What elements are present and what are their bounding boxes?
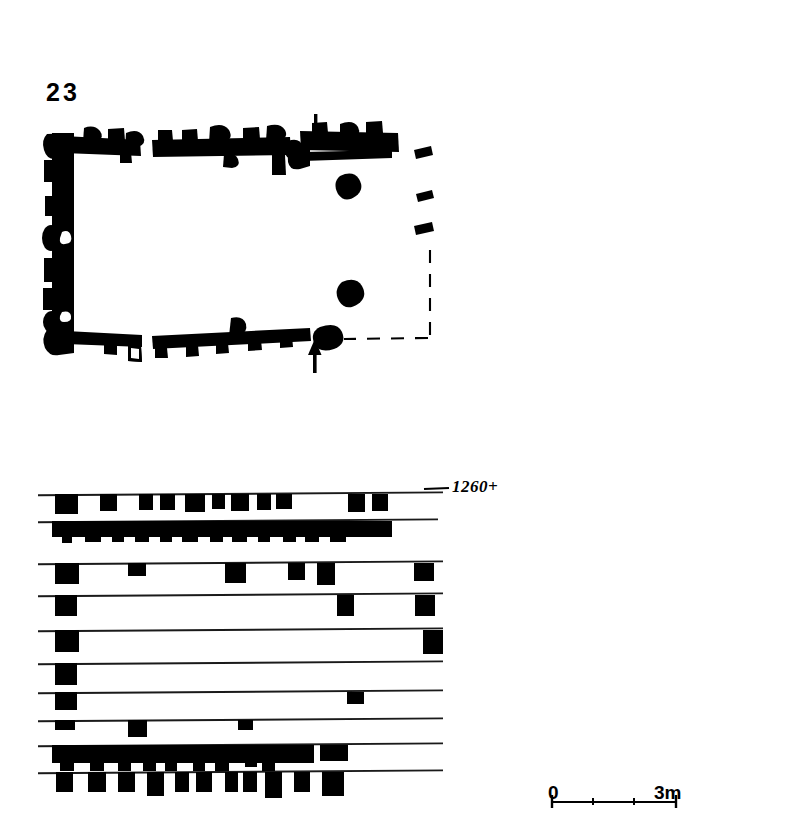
elevation-block-7-2 [347,692,364,704]
elevation-block-1-7 [231,494,249,511]
elevation-block-4-2 [337,595,354,616]
elevation-block-6-1 [55,663,77,685]
elevation-block-3-4 [288,563,305,580]
elevation-block-5-1 [55,630,79,652]
elevation-block-2-11 [283,521,296,542]
scale-end-label: 3m [654,782,681,804]
plan-interior-pillar-bases [335,174,364,308]
elevation-block-9-8 [215,745,229,771]
elevation-block-2-4 [112,521,124,542]
plan-wall-south-middle-segment [152,317,311,358]
elevation-block-9-5 [143,745,156,771]
elevation-course-line-7 [38,690,443,693]
elevation-course-line-6 [38,661,443,664]
elevation-course-line-5 [38,628,443,631]
elevation-course-blocks [52,494,443,798]
elevation-block-1-4 [160,494,175,510]
building-plan [42,114,434,373]
plan-north-doorway-jamb [285,140,303,159]
wall-course-elevation [38,488,449,798]
plan-wall-west [42,133,74,355]
elevation-block-2-13 [330,521,346,542]
elevation-block-7-1 [55,692,77,710]
elevation-block-9-9 [245,745,257,767]
scale-start-label: 0 [548,782,559,804]
elevation-block-1-8 [257,494,271,510]
elevation-block-3-3 [225,563,246,583]
elevation-block-10-3 [118,772,135,792]
elevation-block-10-10 [294,772,310,792]
elevation-block-10-9 [265,772,282,798]
elevation-block-2-9 [232,521,247,542]
elevation-block-2-3 [85,521,101,542]
elevation-block-9-2 [60,745,74,771]
elevation-block-1-6 [212,494,225,509]
elevation-block-9-10 [262,745,275,771]
elevation-block-2-12 [305,521,319,542]
elevation-block-3-6 [414,563,434,581]
elevation-block-8-3 [238,720,253,730]
elevation-block-2-7 [182,521,198,542]
elevation-block-2-2 [62,521,72,543]
archaeological-figure: 23 [0,0,797,828]
elevation-block-2-8 [210,521,223,542]
elevation-block-1-11 [348,494,365,512]
elevation-block-9-4 [118,745,131,771]
elevation-block-1-2 [100,494,117,511]
elevation-block-8-1 [55,720,75,730]
elevation-block-8-2 [128,720,147,737]
elevation-block-1-1 [55,494,78,514]
datum-leader-line [424,488,449,489]
elevation-block-10-5 [175,772,189,792]
elevation-block-9-3 [90,745,104,771]
elevation-block-10-2 [88,772,106,792]
elevation-block-4-1 [55,595,77,616]
plan-wall-north-east-segment [288,121,399,169]
elevation-block-4-3 [415,595,435,616]
elevation-block-2-5 [135,521,149,542]
elevation-block-10-6 [196,772,212,792]
elevation-block-10-4 [147,772,164,796]
elevation-block-2-10 [258,521,270,542]
elevation-block-1-12 [372,494,388,511]
elevation-block-9-11 [282,745,312,763]
plan-wall-north-middle-segment [152,125,291,175]
elevation-block-9-7 [193,745,205,771]
plan-wall-north-west-segment [63,127,144,163]
elevation-course-line-4 [38,593,443,596]
elevation-block-10-7 [225,772,238,792]
elevation-block-10-1 [56,772,73,792]
plan-wall-east-fragments [414,146,434,235]
plan-wall-south-west-segment [66,331,142,362]
elevation-block-9-6 [165,745,177,771]
elevation-block-1-9 [276,494,292,509]
elevation-block-10-11 [322,772,344,796]
elevation-block-2-14 [362,521,390,533]
elevation-block-5-2 [423,630,443,654]
datum-elevation-label: 1260+ [452,477,498,497]
elevation-block-3-2 [128,563,146,576]
elevation-block-2-6 [160,521,172,542]
figure-drawing [0,0,797,828]
elevation-block-10-8 [243,772,257,792]
elevation-block-9-12 [320,745,348,761]
elevation-block-3-5 [317,563,335,585]
elevation-block-3-1 [55,563,79,584]
elevation-block-1-3 [139,494,153,510]
elevation-block-1-5 [185,494,205,512]
